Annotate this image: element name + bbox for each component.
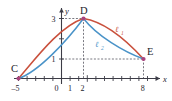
x-tick-label-8: 8 [141, 84, 145, 93]
point-label-d: D [80, 5, 88, 16]
curve-label-inner-symbol: ℓ [95, 40, 99, 49]
point-c-marker [16, 76, 20, 80]
curve-group [19, 19, 144, 79]
curve-label-inner-subscript: 2 [101, 45, 104, 51]
y-axis-arrowhead [59, 8, 64, 12]
x-axis-label: x [162, 74, 167, 84]
point-e-marker [141, 57, 145, 61]
x-tick-label-1: 1 [68, 84, 72, 93]
curve-label-outer: ℓ 1 [115, 25, 124, 36]
x-axis-arrowhead [156, 76, 161, 81]
y-axis-label: y [64, 6, 69, 16]
plotted-points [16, 16, 145, 80]
y-tick-label-3: 3 [52, 15, 56, 24]
curve-label-outer-subscript: 1 [121, 30, 124, 36]
curve-inner-arc [19, 19, 144, 79]
point-d-marker [81, 16, 85, 20]
curve-label-inner: ℓ 2 [95, 40, 104, 51]
point-label-e: E [147, 46, 153, 57]
coordinate-plane-figure: x y –5 0 1 2 8 1 3 C D E ℓ 1 ℓ 2 [0, 0, 172, 101]
x-tick-label-0: 0 [55, 84, 59, 93]
point-label-c: C [11, 63, 18, 74]
curve-label-outer-symbol: ℓ [115, 25, 119, 34]
figure-canvas: x y –5 0 1 2 8 1 3 C D E ℓ 1 ℓ 2 [0, 0, 172, 101]
y-tick-label-1: 1 [52, 55, 56, 64]
curve-outer-arc [19, 19, 144, 79]
x-tick-label-2: 2 [81, 84, 85, 93]
x-tick-label-neg5: –5 [11, 84, 20, 93]
